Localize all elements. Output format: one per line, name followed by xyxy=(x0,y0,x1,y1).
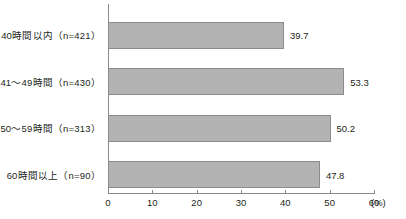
x-tick-label-20: 20 xyxy=(191,198,202,208)
x-tick-mark-30 xyxy=(241,190,242,194)
x-tick-mark-40 xyxy=(285,190,286,194)
x-tick-mark-0 xyxy=(108,190,109,194)
category-label-0: 40時間以内（n=421） xyxy=(0,31,101,41)
x-tick-label-10: 10 xyxy=(147,198,158,208)
category-label-2: 50〜59時間（n=313） xyxy=(0,124,101,134)
bar-41-to-49-hours xyxy=(108,68,344,95)
bar-value-1: 53.3 xyxy=(350,78,369,88)
plot-area xyxy=(108,0,374,194)
category-label-3: 60時間以上（n=90） xyxy=(0,171,101,181)
x-tick-mark-50 xyxy=(330,190,331,194)
x-tick-label-50: 50 xyxy=(324,198,335,208)
x-tick-mark-60 xyxy=(374,190,375,194)
horizontal-bar-chart: 40時間以内（n=421） 41〜49時間（n=430） 50〜59時間（n=3… xyxy=(0,0,406,219)
x-tick-mark-20 xyxy=(197,190,198,194)
x-axis-unit-label: (%) xyxy=(371,198,386,208)
x-tick-mark-10 xyxy=(152,190,153,194)
bar-value-3: 47.8 xyxy=(326,171,345,181)
bar-50-to-59-hours xyxy=(108,115,331,142)
x-tick-label-30: 30 xyxy=(236,198,247,208)
bar-40-hours-or-less xyxy=(108,22,284,49)
bar-60-hours-or-more xyxy=(108,161,320,188)
bar-value-2: 50.2 xyxy=(337,124,356,134)
bar-value-0: 39.7 xyxy=(290,31,309,41)
category-label-1: 41〜49時間（n=430） xyxy=(0,78,101,88)
x-tick-label-0: 0 xyxy=(105,198,110,208)
x-tick-label-40: 40 xyxy=(280,198,291,208)
